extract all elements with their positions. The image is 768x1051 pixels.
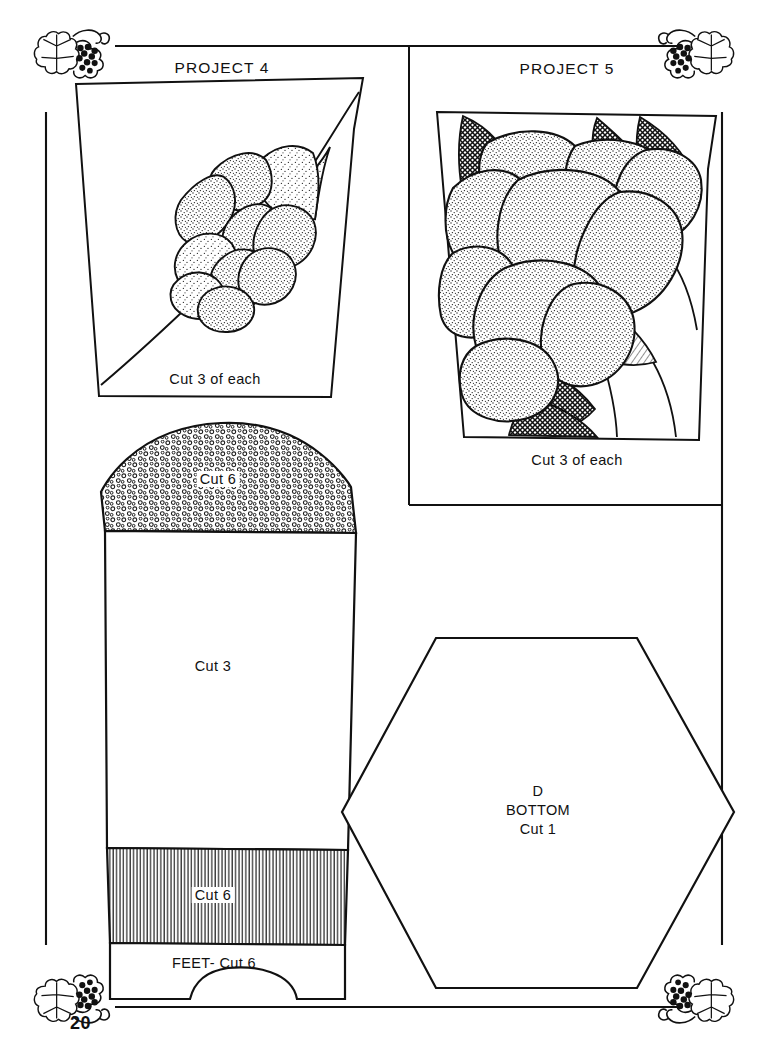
- project4-title: PROJECT 4: [175, 59, 270, 77]
- ornament-bottom-right: [659, 975, 734, 1023]
- basket-body-label: Cut 3: [195, 658, 232, 674]
- project5-caption: Cut 3 of each: [531, 452, 622, 468]
- hexagon-name: BOTTOM: [506, 801, 570, 820]
- ornament-top-right: [659, 30, 734, 78]
- project4-caption: Cut 3 of each: [169, 371, 260, 387]
- pattern-page: PROJECT 4 PROJECT 5 Cut 3 of each Cut 3 …: [0, 0, 768, 1051]
- project4-artwork-box: [76, 78, 363, 397]
- hexagon-letter: D: [533, 782, 544, 801]
- project5-title: PROJECT 5: [520, 60, 615, 78]
- hexagon-cut-count: Cut 1: [520, 820, 557, 839]
- ornament-top-left: [34, 30, 109, 78]
- basket-feet-label: FEET- Cut 6: [172, 955, 256, 971]
- page-number: 20: [70, 1013, 91, 1034]
- basket-feet-piece: [110, 943, 345, 999]
- basket-band-label: Cut 6: [192, 887, 235, 903]
- basket-top-arc-label: Cut 6: [197, 471, 240, 487]
- page-artwork-layer: [0, 0, 768, 1051]
- basket-body-piece: [105, 531, 356, 850]
- project5-artwork-box: [437, 112, 716, 440]
